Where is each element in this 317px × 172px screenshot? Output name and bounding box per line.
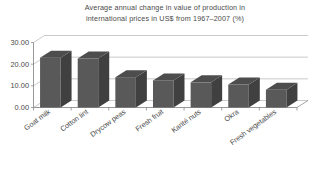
category-label: Karité nuts bbox=[170, 107, 203, 135]
category-label: Cotton lint bbox=[58, 107, 89, 133]
bar-column bbox=[78, 52, 110, 108]
category-label: Drycow peas bbox=[88, 107, 127, 139]
x-axis-category-labels: Goat milkCotton lintDrycow peasFresh fru… bbox=[22, 107, 278, 147]
y-tick-label: 20.00 bbox=[11, 60, 30, 69]
bar-column bbox=[266, 83, 298, 108]
bar-front-face bbox=[115, 77, 136, 107]
category-label: Fresh fruit bbox=[134, 107, 165, 133]
bar-front-face bbox=[228, 85, 249, 108]
category-label: Okra bbox=[222, 107, 240, 123]
bar-chart-plot: 0.0010.0020.0030.00 Goat milkCotton lint… bbox=[0, 0, 317, 172]
bar-side-face bbox=[61, 51, 72, 108]
bars-group bbox=[40, 51, 297, 108]
bar-side-face bbox=[98, 52, 109, 108]
bar-column bbox=[40, 51, 72, 108]
bar-front-face bbox=[266, 90, 287, 108]
bar-column bbox=[228, 78, 260, 108]
bar-column bbox=[115, 70, 147, 107]
bar-column bbox=[153, 73, 185, 107]
bar-column bbox=[191, 75, 223, 107]
y-tick-label: 30.00 bbox=[11, 38, 30, 47]
bar-front-face bbox=[153, 80, 174, 107]
bar-front-face bbox=[191, 82, 212, 107]
y-tick-label: 0.00 bbox=[15, 103, 29, 112]
y-axis-tick-labels: 0.0010.0020.0030.00 bbox=[11, 38, 30, 112]
bar-front-face bbox=[78, 59, 99, 108]
bar-front-face bbox=[40, 58, 61, 108]
y-tick-label: 10.00 bbox=[11, 81, 30, 90]
chart-container: Average annual change in value of produc… bbox=[0, 0, 317, 172]
